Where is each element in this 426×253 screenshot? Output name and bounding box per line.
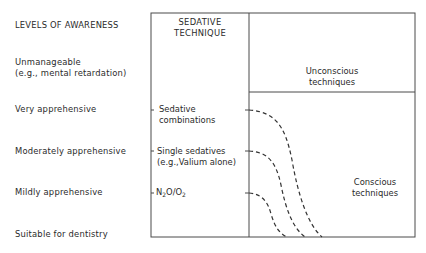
level-mildly-apprehensive: Mildly apprehensive — [15, 187, 103, 198]
level-sublabel: (e.g., mental retardation) — [15, 68, 127, 79]
curve-n2o — [249, 193, 287, 237]
conscious-line-2: techniques — [340, 188, 410, 199]
n2o-sub-2: 2 — [182, 191, 186, 198]
level-unmanageable: Unmanageable (e.g., mental retardation) — [15, 57, 127, 79]
technique-sublabel: (e.g.,Valium alone) — [157, 157, 236, 168]
technique-single-sedatives: Single sedatives (e.g.,Valium alone) — [157, 146, 236, 168]
level-suitable-for-dentistry: Suitable for dentistry — [15, 229, 108, 240]
conscious-techniques-label: Conscious techniques — [340, 177, 410, 199]
technique-sedative-combinations: Sedative combinations — [159, 104, 215, 126]
level-label: Unmanageable — [15, 57, 127, 68]
levels-header: LEVELS OF AWARENESS — [15, 20, 119, 31]
unconscious-line-1: Unconscious — [249, 66, 415, 77]
technique-label: Sedative — [159, 104, 215, 115]
unconscious-techniques-label: Unconscious techniques — [249, 66, 415, 88]
technique-sublabel: combinations — [159, 115, 215, 126]
unconscious-line-2: techniques — [249, 77, 415, 88]
header-line-1: SEDATIVE — [151, 17, 249, 28]
curve-single-sedatives — [249, 151, 305, 237]
level-moderately-apprehensive: Moderately apprehensive — [15, 146, 126, 157]
technique-n2o-o2: N2O/O2 — [156, 187, 186, 200]
sedative-technique-header: SEDATIVE TECHNIQUE — [151, 17, 249, 39]
technique-label: Single sedatives — [157, 146, 236, 157]
level-very-apprehensive: Very apprehensive — [15, 104, 96, 115]
header-line-2: TECHNIQUE — [151, 28, 249, 39]
n2o-mid: O/O — [166, 187, 182, 197]
conscious-line-1: Conscious — [340, 177, 410, 188]
curve-sedative-combinations — [249, 110, 322, 237]
